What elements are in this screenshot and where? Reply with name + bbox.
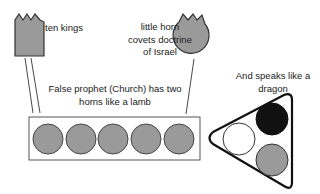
- horn-circle: [66, 124, 96, 154]
- little-horn-label: little horn covets doctrine of Israel: [115, 21, 205, 59]
- horn-circle: [164, 124, 194, 154]
- dragon-triangle: [210, 94, 293, 188]
- dragon-label: And speaks like a dragon: [228, 70, 318, 95]
- ten-kings-shape: [15, 14, 44, 56]
- ten-kings-label: ten kings: [45, 22, 83, 35]
- connector-line: [31, 58, 40, 113]
- black-circle: [256, 103, 288, 135]
- horn-circle: [131, 124, 161, 154]
- horn-circle: [98, 124, 128, 154]
- connector-line: [25, 58, 33, 113]
- horn-circle: [33, 124, 63, 154]
- white-circle: [223, 123, 255, 155]
- false-prophet-label: False prophet (Church) has two horns lik…: [40, 83, 190, 108]
- lamb-box: [29, 117, 200, 160]
- gray-circle: [256, 144, 288, 176]
